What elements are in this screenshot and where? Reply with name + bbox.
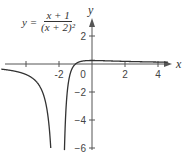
x-tick-label: 2 [122, 69, 128, 80]
y-tick-label: −4 [75, 115, 87, 126]
x-tick-label: -2 [55, 69, 64, 80]
y-axis-arrow-icon [89, 18, 95, 27]
equation-fraction: x + 1 (x + 2)² [41, 10, 75, 33]
x-tick-label: 0 [80, 69, 86, 80]
y-tick-label: −2 [75, 87, 87, 98]
x-tick-label: 4 [155, 69, 161, 80]
equation-denominator: (x + 2)² [41, 22, 75, 33]
x-axis-label: x [175, 57, 182, 71]
curve-left-branch [1, 69, 51, 148]
equation-lhs: y = [22, 16, 37, 28]
equation-label: y = x + 1 (x + 2)² [22, 10, 75, 33]
y-tick-label: 2 [80, 31, 86, 42]
chart: xy-20242−2−4−6 y = x + 1 (x + 2)² [0, 0, 183, 163]
y-axis-label: y [87, 3, 94, 17]
y-tick-label: −6 [75, 143, 87, 154]
